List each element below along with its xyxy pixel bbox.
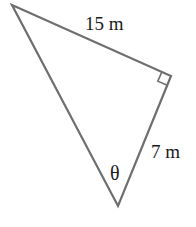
triangle-diagram: 15 m 7 m θ bbox=[0, 0, 196, 227]
triangle-shape bbox=[12, 5, 171, 206]
angle-label-theta: θ bbox=[110, 163, 120, 183]
triangle-figure bbox=[0, 0, 196, 227]
side-label-15m: 15 m bbox=[85, 14, 124, 33]
side-label-7m: 7 m bbox=[151, 142, 180, 161]
